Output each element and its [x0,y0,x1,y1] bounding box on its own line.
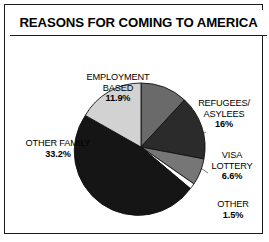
pie-label-refugees-asylees-line2: ASYLEES [180,109,268,120]
pie-label-other-line1: OTHER [198,199,268,210]
pie-label-refugees-asylees-value: 16% [180,119,268,130]
pie-label-other-family-value: 33.2% [16,149,100,160]
pie-label-employment-based-value: 11.9% [70,93,166,104]
chart-title-band: REASONS FOR COMING TO AMERICA [10,10,267,36]
pie-label-other: OTHER 1.5% [198,199,268,220]
pie-label-other-value: 1.5% [198,210,268,221]
pie-label-other-family-line1: OTHER FAMILY [16,138,100,149]
chart-screenshot: REASONS FOR COMING TO AMERICA [0,0,269,242]
pie-label-employment-based: EMPLOYMENT BASED 11.9% [70,72,166,104]
pie-label-visa-lottery-line1: VISA [196,150,268,161]
pie-label-employment-based-line2: BASED [70,83,166,94]
page-title: REASONS FOR COMING TO AMERICA [19,15,257,30]
pie-label-visa-lottery-line2: LOTTERY [196,161,268,172]
pie-label-visa-lottery-value: 6.6% [196,171,268,182]
pie-label-other-family: OTHER FAMILY 33.2% [16,138,100,159]
pie-label-refugees-asylees-line1: REFUGEES/ [180,98,268,109]
pie-label-employment-based-line1: EMPLOYMENT [70,72,166,83]
pie-plot-area: EMPLOYMENT BASED 11.9% REFUGEES/ ASYLEES… [10,36,267,238]
pie-label-visa-lottery: VISA LOTTERY 6.6% [196,150,268,182]
pie-label-refugees-asylees: REFUGEES/ ASYLEES 16% [180,98,268,130]
chart-frame: REASONS FOR COMING TO AMERICA [4,4,263,234]
